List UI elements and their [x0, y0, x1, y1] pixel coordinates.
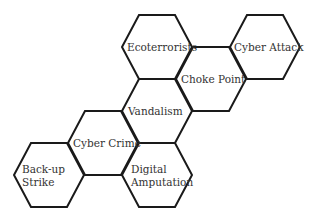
label-ecoterrorists: Ecoterrorists: [127, 41, 197, 54]
label-cyber-attack: Cyber Attack: [234, 41, 304, 54]
label-line: Ecoterrorists: [127, 41, 197, 54]
label-choke-point: Choke Point: [181, 73, 245, 86]
label-line: Choke Point: [181, 73, 245, 86]
label-vandalism: Vandalism: [128, 105, 183, 118]
label-cyber-crime: Cyber Crime: [73, 137, 141, 150]
label-line: Back-up: [22, 163, 65, 176]
label-line: Cyber Attack: [234, 41, 304, 54]
hexagon-diagram: EcoterroristsCyber AttackChoke PointVand…: [0, 0, 313, 219]
label-line: Strike: [22, 176, 65, 189]
label-digital-amputation: DigitalAmputation: [131, 163, 193, 189]
label-line: Amputation: [131, 176, 193, 189]
label-line: Vandalism: [128, 105, 183, 118]
label-line: Cyber Crime: [73, 137, 141, 150]
label-line: Digital: [131, 163, 193, 176]
label-back-up-strike: Back-upStrike: [22, 163, 65, 189]
